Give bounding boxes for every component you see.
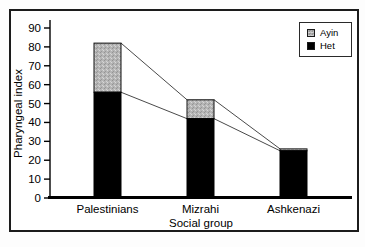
connector-line-total (214, 100, 280, 149)
y-tick-label: 20 (28, 154, 41, 166)
x-category-label: Ashkenazi (267, 203, 320, 215)
y-tick-label: 30 (28, 135, 41, 147)
y-tick-label: 70 (28, 60, 41, 72)
legend-item-ayin: Ayin (307, 28, 351, 38)
bar-segment-het-ashkenazi (280, 151, 307, 198)
y-tick-label: 50 (28, 98, 41, 110)
x-category-label: Palestinians (76, 203, 138, 215)
legend-item-het: Het (307, 41, 351, 51)
bar-segment-het-mizrahi (187, 119, 214, 198)
het-swatch-icon (307, 42, 315, 50)
y-axis-title: Pharyngeal index (11, 59, 26, 169)
y-tick-label: 10 (28, 173, 41, 185)
y-tick-label: 80 (28, 41, 41, 53)
y-tick-label: 0 (35, 192, 41, 204)
legend: Ayin Het (299, 22, 352, 57)
x-axis-title: Social group (90, 217, 312, 231)
x-category-label: Mizrahi (182, 203, 219, 215)
legend-label: Het (320, 41, 335, 51)
y-tick-label: 90 (28, 22, 41, 34)
connector-line-het (214, 119, 280, 151)
legend-label: Ayin (320, 28, 338, 38)
bar-segment-ayin-mizrahi (187, 100, 214, 119)
ayin-swatch-icon (307, 29, 315, 37)
y-tick-label: 60 (28, 79, 41, 91)
bar-segment-ayin-palestinians (94, 43, 121, 92)
y-tick-label: 40 (28, 116, 41, 128)
connector-line-het (121, 92, 187, 118)
bar-segment-het-palestinians (94, 92, 121, 198)
connector-line-total (121, 43, 187, 100)
